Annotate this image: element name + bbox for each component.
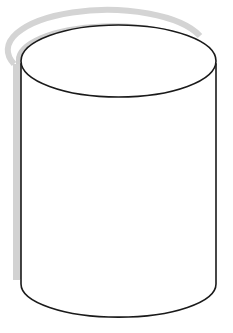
- cylinder-shape: [0, 0, 233, 333]
- side-shadow: [13, 64, 20, 280]
- cylinder-top: [21, 25, 216, 97]
- cylinder-diagram: [0, 0, 233, 333]
- cylinder-body: [21, 64, 216, 317]
